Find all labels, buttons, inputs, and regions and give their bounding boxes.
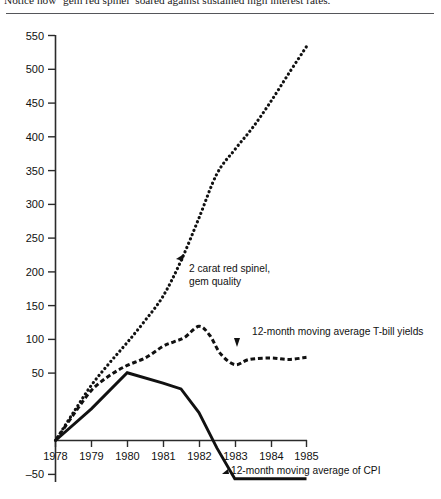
x-label-1980: 1980	[115, 450, 139, 462]
series-spinel-line	[56, 47, 307, 441]
spinel-annotation-line1: 2 carat red spinel,	[189, 263, 270, 274]
cpi-arrow-icon	[222, 469, 229, 474]
y-axis-labels: 550 500 450 400 350 300 250 200 150 100 …	[26, 30, 44, 481]
y-axis-ticks	[48, 36, 55, 475]
x-axis-labels: 1978 1979 1980 1981 1982 1983 1984 1985	[43, 450, 318, 462]
annotation-cpi: 12-month moving average of CPI	[222, 465, 381, 476]
spinel-arrow-icon	[176, 254, 184, 261]
y-label-250: 250	[26, 232, 44, 244]
figure-container: Notice how ‘gem red spinel’ soared again…	[0, 0, 441, 499]
tbill-arrow-icon	[234, 338, 240, 347]
y-label-550: 550	[26, 30, 44, 42]
y-label-100: 100	[26, 333, 44, 345]
series-cpi-line	[56, 373, 307, 479]
x-label-1985: 1985	[294, 450, 318, 462]
spinel-annotation-line2: gem quality	[189, 276, 242, 287]
y-label-300: 300	[26, 198, 44, 210]
y-label-350: 350	[26, 165, 44, 177]
y-label-200: 200	[26, 266, 44, 278]
x-label-1981: 1981	[151, 450, 175, 462]
tbill-annotation: 12-month moving average T-bill yields	[252, 326, 423, 337]
y-label-450: 450	[26, 97, 44, 109]
y-label-150: 150	[26, 300, 44, 312]
annotation-tbill: 12-month moving average T-bill yields	[234, 326, 423, 347]
x-label-1978: 1978	[43, 450, 67, 462]
x-label-1984: 1984	[259, 450, 283, 462]
x-label-1983: 1983	[223, 450, 247, 462]
y-label-neg50: –50	[26, 468, 44, 480]
annotation-spinel: 2 carat red spinel, gem quality	[176, 254, 270, 287]
cpi-annotation: 12-month moving average of CPI	[231, 465, 381, 476]
y-label-50: 50	[32, 367, 44, 379]
y-label-400: 400	[26, 131, 44, 143]
y-label-500: 500	[26, 63, 44, 75]
x-label-1982: 1982	[187, 450, 211, 462]
x-label-1979: 1979	[79, 450, 103, 462]
line-chart: 550 500 450 400 350 300 250 200 150 100 …	[0, 0, 441, 499]
